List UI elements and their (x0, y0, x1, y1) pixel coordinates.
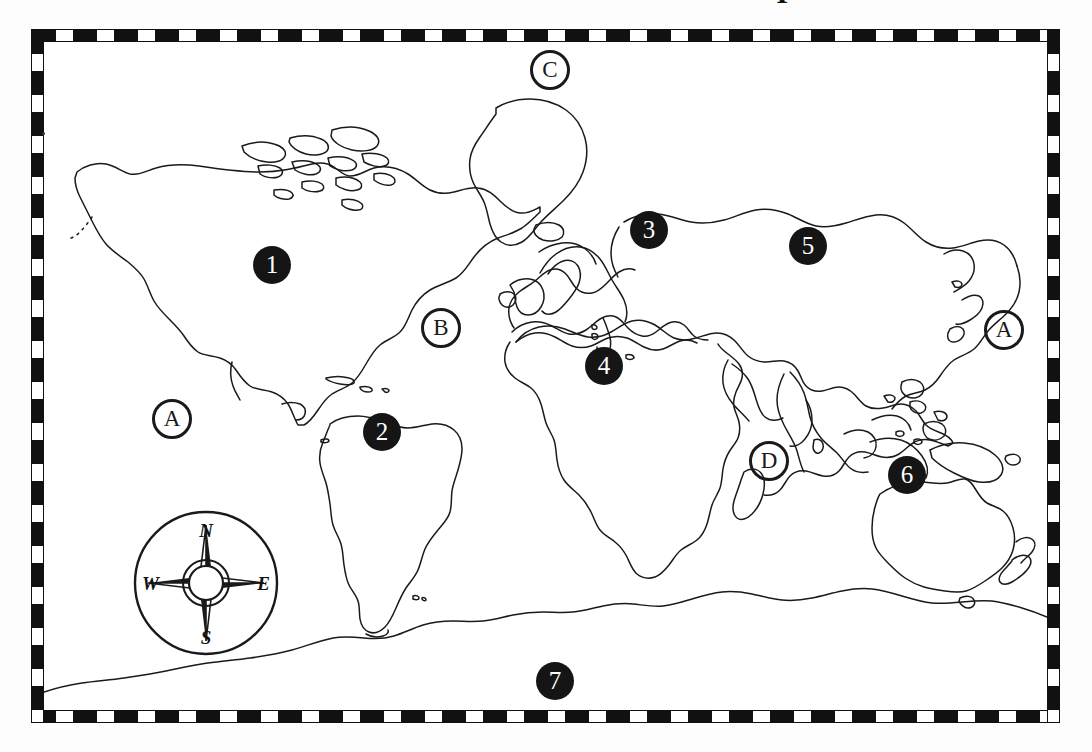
border-dash (32, 522, 43, 546)
marker-a-right-label: A (996, 318, 1013, 341)
border-dash (237, 30, 261, 41)
marker-b[interactable]: B (421, 308, 461, 348)
border-dash (811, 711, 835, 722)
border-dash (1048, 71, 1059, 95)
border-dash (32, 440, 43, 464)
border-dash (1048, 30, 1059, 54)
marker-1[interactable]: 1 (253, 246, 291, 284)
new-britain-outline (1005, 454, 1020, 465)
border-dash (155, 711, 179, 722)
marker-7[interactable]: 7 (536, 662, 574, 700)
puerto-rico-outline (382, 389, 389, 393)
marker-d-label: D (761, 449, 778, 472)
new-zealand-south-island (999, 555, 1031, 584)
border-dash (196, 711, 220, 722)
border-dash (401, 30, 425, 41)
border-dash (688, 711, 712, 722)
japan-honshu-outline (956, 295, 983, 324)
map-border-right (1047, 29, 1060, 723)
border-dash (1048, 481, 1059, 505)
map-border-bottom (31, 710, 1060, 723)
border-dash (852, 30, 876, 41)
marker-2[interactable]: 2 (363, 413, 401, 451)
border-dash (360, 30, 384, 41)
marker-a-left[interactable]: A (152, 399, 192, 439)
border-dash (565, 711, 589, 722)
corsica-outline (592, 325, 597, 330)
border-dash (483, 30, 507, 41)
arctic-island-3 (331, 127, 379, 151)
border-dash (73, 711, 97, 722)
marker-c[interactable]: C (530, 50, 570, 90)
sri-lanka-outline (813, 439, 823, 453)
marker-6[interactable]: 6 (888, 456, 926, 494)
border-dash (73, 30, 97, 41)
border-dash (114, 711, 138, 722)
border-dash (934, 30, 958, 41)
map-frame: 1 2 3 4 5 6 7 A (31, 29, 1060, 723)
marker-c-label: C (542, 58, 557, 81)
border-dash (1048, 112, 1059, 136)
philippines-luzon (901, 380, 924, 398)
border-dash (1048, 522, 1059, 546)
marker-5[interactable]: 5 (789, 227, 827, 265)
border-dash (319, 30, 343, 41)
border-dash (1016, 30, 1040, 41)
border-dash (893, 30, 917, 41)
compass-hub (189, 566, 223, 600)
border-dash (32, 604, 43, 628)
north-america-outline (75, 163, 540, 425)
marker-2-label: 2 (376, 419, 389, 444)
falkland-island-1 (413, 596, 419, 600)
new-zealand-north-island (1016, 538, 1035, 563)
border-dash (606, 30, 630, 41)
new-guinea-outline (930, 443, 1003, 482)
marker-7-label: 7 (549, 668, 562, 693)
border-dash (1048, 235, 1059, 259)
border-dash (811, 30, 835, 41)
border-dash (893, 711, 917, 722)
border-dash (1048, 645, 1059, 669)
scandinavia-outline (540, 247, 627, 322)
border-dash (237, 711, 261, 722)
kamchatka-outline (944, 250, 974, 292)
compass-label-east: E (257, 574, 270, 593)
compass-label-west: W (142, 574, 159, 593)
border-dash (647, 30, 671, 41)
border-dash (483, 711, 507, 722)
cuba-outline (326, 377, 354, 385)
arctic-island-1 (242, 142, 285, 162)
border-dash (32, 645, 43, 669)
border-dash (524, 30, 548, 41)
marker-a-right[interactable]: A (984, 310, 1024, 350)
small-island-4 (934, 411, 947, 421)
arctic-island-7 (362, 153, 389, 166)
worksheet-page: I (0, 0, 1092, 752)
border-dash (606, 711, 630, 722)
border-dash (360, 711, 384, 722)
aleutian-dots-guide (68, 217, 92, 239)
india-peninsula-tip (790, 400, 812, 446)
arctic-island-6 (328, 157, 356, 171)
border-dash (852, 711, 876, 722)
border-dash (975, 711, 999, 722)
crete-outline (626, 355, 634, 360)
border-dash (729, 711, 753, 722)
border-dash (647, 711, 671, 722)
baja-california-outline (231, 362, 240, 400)
border-dash (565, 30, 589, 41)
hispaniola-outline (360, 387, 372, 392)
stray-speck (42, 132, 45, 135)
border-dash (1048, 358, 1059, 382)
border-dash (442, 711, 466, 722)
border-dash (729, 30, 753, 41)
title-fragment: I (762, 0, 802, 8)
marker-4[interactable]: 4 (585, 347, 623, 385)
marker-3[interactable]: 3 (630, 211, 668, 249)
japan-kyushu-outline (948, 327, 964, 342)
border-dash (32, 30, 43, 54)
marker-d[interactable]: D (749, 441, 789, 481)
map-border-top (31, 29, 1060, 42)
border-dash (975, 30, 999, 41)
marker-a-left-label: A (164, 407, 181, 430)
